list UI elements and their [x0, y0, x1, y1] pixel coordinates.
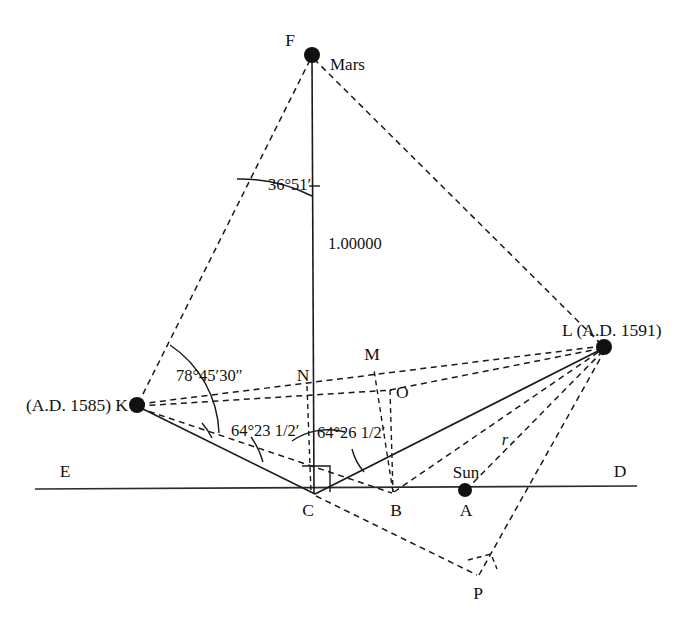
angle-arc-B-inner: [352, 449, 364, 472]
label-point-B: B: [390, 500, 402, 520]
label-point-A: A: [460, 500, 473, 520]
line-P-L-dashed: [479, 350, 605, 575]
label-point-D: D: [614, 461, 627, 481]
line-F-K-dashed: [138, 60, 310, 404]
label-angle-K: 78°45′30″: [176, 366, 243, 385]
label-point-M: M: [364, 344, 380, 364]
label-point-L: L (A.D. 1591): [562, 320, 662, 340]
label-angle-C: 64°23 1/2′: [231, 421, 299, 440]
angle-arc-K-inner: [202, 423, 212, 438]
label-point-E: E: [60, 461, 71, 481]
label-mars: Mars: [330, 55, 365, 74]
label-distance-FC: 1.00000: [328, 234, 382, 253]
diagram-canvas: F Mars 36°51′ 1.00000 (A.D. 1585) K L (A…: [0, 0, 687, 636]
label-angle-B: 64°26 1/2′: [317, 423, 385, 442]
line-N-C-dashed: [307, 386, 311, 492]
angle-arc-K: [170, 345, 219, 433]
line-K-O-dashed: [139, 390, 392, 406]
label-point-N: N: [297, 365, 310, 385]
geometry-figure: F Mars 36°51′ 1.00000 (A.D. 1585) K L (A…: [0, 0, 687, 636]
label-sun: Sun: [453, 463, 480, 482]
point-dot-F: [304, 47, 320, 63]
right-angle-marker-P: [468, 554, 497, 569]
label-angle-F: 36°51′: [268, 175, 311, 194]
label-point-P: P: [473, 583, 483, 603]
line-F-L-dashed: [314, 59, 603, 346]
point-dot-A-sun: [458, 483, 472, 497]
label-point-C: C: [302, 500, 314, 520]
point-dot-K: [129, 397, 145, 413]
line-F-C: [312, 58, 314, 494]
line-B-L-dashed: [394, 349, 603, 492]
line-E-D: [35, 486, 637, 489]
label-radius-r: r: [502, 430, 509, 449]
label-point-K: (A.D. 1585) K: [26, 395, 128, 415]
label-point-O: O: [396, 382, 409, 402]
line-O-B-dashed: [390, 390, 393, 492]
label-point-F: F: [285, 30, 295, 50]
point-dot-L: [596, 339, 612, 355]
